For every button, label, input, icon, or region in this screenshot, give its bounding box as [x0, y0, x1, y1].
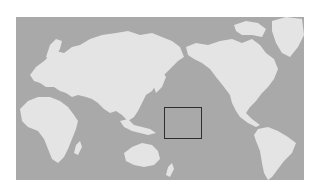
new-zealand-landmass — [166, 163, 174, 177]
south-america-landmass — [254, 127, 296, 180]
madagascar-landmass — [74, 141, 82, 155]
world-map — [16, 17, 304, 180]
highlight-region-box — [164, 107, 202, 139]
africa-landmass — [20, 97, 78, 163]
world-map-svg — [16, 17, 304, 180]
arctic-islands — [234, 21, 266, 37]
australia-landmass — [124, 143, 160, 167]
greenland-landmass — [272, 17, 304, 57]
southeast-asia-islands — [120, 119, 156, 135]
